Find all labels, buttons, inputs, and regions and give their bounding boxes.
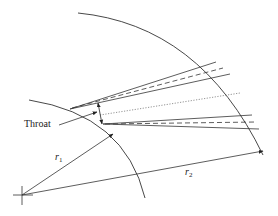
passage-centerline: [100, 93, 240, 115]
r2-label: r2: [185, 166, 193, 179]
lower-vane: [103, 115, 259, 129]
throat-label: Throat: [24, 118, 51, 129]
outer-circle-arc: [78, 13, 263, 155]
r1-radius-arrow: [22, 134, 113, 195]
upper-vane: [70, 62, 230, 109]
throat-dimension-arrow: [98, 103, 102, 124]
r1-subscript: 1: [59, 156, 63, 164]
diffuser-diagram: Throat r1 r2: [0, 0, 278, 216]
center-cross: [13, 186, 33, 205]
r2-subscript: 2: [189, 171, 193, 179]
r1-label: r1: [55, 151, 63, 164]
